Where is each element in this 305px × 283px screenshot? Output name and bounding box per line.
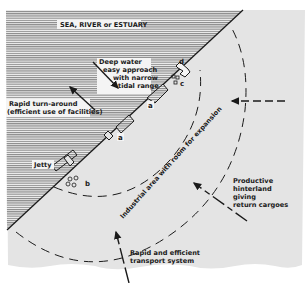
marker-c: c [180,80,184,88]
marker-a-lower: a [118,134,123,142]
jetty-label: Jetty [33,161,52,169]
sea-label: SEA, RIVER or ESTUARY [60,21,148,29]
marker-a-upper: a [148,102,153,110]
marker-d: d [179,58,184,66]
port-location-diagram: SEA, RIVER or ESTUARY Deep water easy ap… [0,0,305,283]
marker-b: b [85,180,90,188]
transport-label: Rapid and efficient transport system [130,249,202,265]
